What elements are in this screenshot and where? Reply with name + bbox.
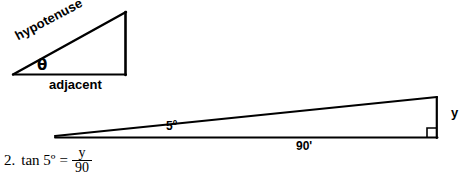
reference-angle-theta-label: θ (37, 58, 47, 73)
equation-number: 2. (4, 152, 15, 169)
reference-adjacent-label: adjacent (49, 78, 102, 91)
equation-line: 2. tan 5º = y 90 (4, 146, 92, 176)
right-angle-marker-icon (427, 128, 436, 137)
equation-equals-sign: = (59, 152, 67, 169)
problem-triangle-shape (55, 97, 438, 138)
problem-hypotenuse-line (55, 97, 437, 136)
equation-left-side: tan 5º (21, 152, 55, 169)
problem-opposite-length-label: y (451, 106, 458, 119)
problem-angle-label: 5º (166, 120, 177, 132)
worksheet-figure-page: hypotenuse θ adjacent 5º 90' y 2. tan 5º… (0, 0, 463, 183)
fraction-denominator: 90 (73, 161, 91, 175)
equation-fraction: y 90 (72, 146, 92, 176)
fraction-numerator: y (76, 146, 87, 160)
problem-base-length-label: 90' (296, 140, 312, 152)
